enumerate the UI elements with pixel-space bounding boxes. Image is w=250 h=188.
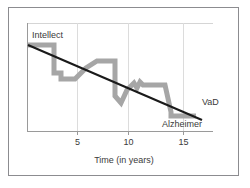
series-label-vad: VaD bbox=[202, 97, 219, 107]
figure-root: Intellect VaD Alzheimer 5 10 15 Time (in… bbox=[0, 0, 250, 188]
intellect-decline-chart: Intellect VaD Alzheimer 5 10 15 Time (in… bbox=[0, 0, 250, 188]
x-axis-title: Time (in years) bbox=[94, 155, 154, 165]
series-label-alzheimer: Alzheimer bbox=[162, 119, 202, 129]
y-axis-label: Intellect bbox=[32, 30, 64, 40]
x-tick-label-10: 10 bbox=[123, 137, 133, 147]
x-tick-label-5: 5 bbox=[75, 137, 80, 147]
x-tick-label-15: 15 bbox=[178, 137, 188, 147]
